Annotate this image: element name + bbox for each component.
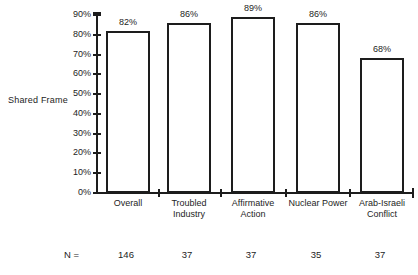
category-label: Affirmative Action <box>217 198 289 220</box>
y-axis-line <box>96 12 98 194</box>
y-tick-label: 90% <box>57 9 91 20</box>
n-value: 35 <box>294 249 338 260</box>
y-tick-label: 20% <box>57 147 91 158</box>
y-tick-label: 0% <box>57 187 91 198</box>
bar-value-label: 82% <box>106 17 150 27</box>
x-tick-mark <box>349 189 351 197</box>
n-value: 37 <box>358 249 402 260</box>
bar-value-label: 68% <box>360 44 404 54</box>
x-tick-mark <box>285 189 287 197</box>
x-axis-end-tick <box>412 188 414 198</box>
bar-2 <box>167 23 211 194</box>
y-tick-label: 30% <box>57 128 91 139</box>
shared-frame-bar-chart: Shared Frame 0%10%20%30%40%50%60%70%80%9… <box>0 0 418 275</box>
category-label: Nuclear Power <box>282 198 354 209</box>
bar-value-label: 86% <box>296 9 340 19</box>
y-tick-mark <box>93 133 101 135</box>
n-equals-label: N = <box>64 249 79 260</box>
n-value: 37 <box>229 249 273 260</box>
y-tick-label: 60% <box>57 68 91 79</box>
x-tick-mark <box>158 189 160 197</box>
plot-area: 0%10%20%30%40%50%60%70%80%90%82%Overall8… <box>0 0 418 275</box>
y-tick-mark <box>93 73 101 75</box>
n-value: 146 <box>104 249 148 260</box>
y-tick-label: 40% <box>57 108 91 119</box>
y-tick-label: 50% <box>57 88 91 99</box>
y-tick-mark <box>93 152 101 154</box>
y-tick-mark <box>93 54 101 56</box>
bar-1 <box>106 31 150 194</box>
category-label: Troubled Industry <box>153 198 225 220</box>
bar-value-label: 86% <box>167 9 211 19</box>
y-tick-mark <box>93 113 101 115</box>
y-tick-mark <box>93 14 101 16</box>
x-tick-mark <box>220 189 222 197</box>
y-tick-mark <box>93 34 101 36</box>
y-tick-mark <box>93 172 101 174</box>
y-tick-label: 10% <box>57 167 91 178</box>
category-label: Arab-Israeli Conflict <box>346 198 418 220</box>
y-tick-mark <box>93 93 101 95</box>
sample-size-row: N = 14637373537 <box>0 249 418 263</box>
bar-4 <box>296 23 340 194</box>
bar-3 <box>231 17 275 194</box>
bar-value-label: 89% <box>231 3 275 13</box>
y-tick-mark <box>93 192 101 194</box>
y-tick-label: 80% <box>57 29 91 40</box>
n-value: 37 <box>165 249 209 260</box>
bar-5 <box>360 58 404 194</box>
y-tick-label: 70% <box>57 49 91 60</box>
